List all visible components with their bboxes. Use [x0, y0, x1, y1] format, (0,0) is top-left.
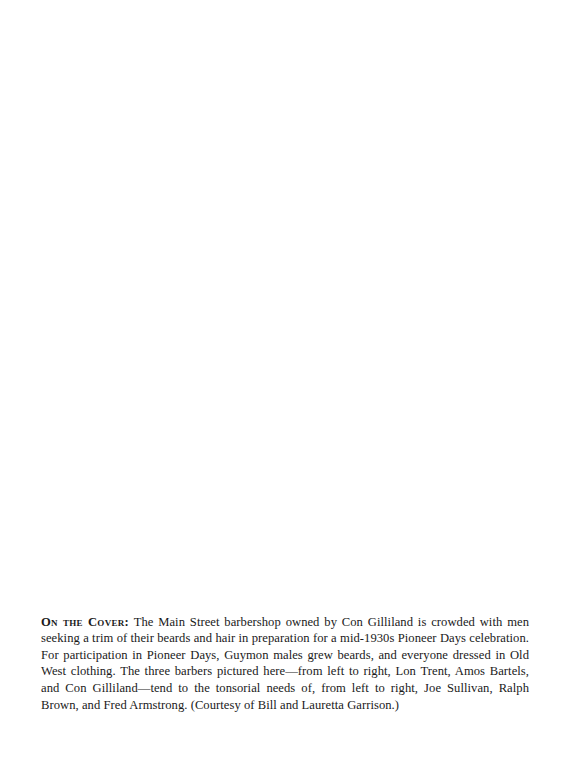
book-page: On the Cover: The Main Street barbershop…	[0, 0, 568, 765]
caption-body: The Main Street barbershop owned by Con …	[41, 615, 529, 712]
caption-lead: On the Cover:	[41, 615, 129, 629]
cover-caption: On the Cover: The Main Street barbershop…	[41, 614, 529, 714]
